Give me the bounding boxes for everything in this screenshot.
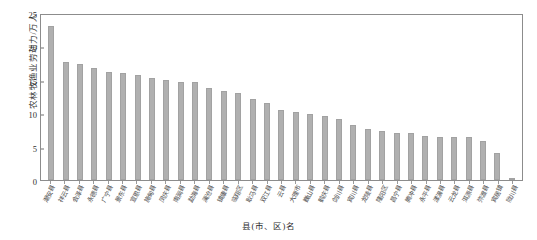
bar-slot: [159, 15, 173, 180]
bar: [437, 137, 443, 180]
x-label-slot: 云龙县: [448, 184, 462, 218]
y-tick-label: 15: [29, 77, 42, 87]
bar-slot: [447, 15, 461, 180]
x-tick-label: 云县: [276, 184, 288, 198]
bar: [192, 82, 198, 180]
bar: [206, 88, 212, 180]
x-label-slot: 潮安县: [43, 184, 57, 218]
bar-slot: [433, 15, 447, 180]
x-label-slot: 宣恩县: [130, 184, 144, 218]
x-tick-label: 临翔区: [230, 184, 245, 203]
x-tick-label: 昌宁县: [388, 184, 403, 203]
x-label-slot: 宾居镇: [491, 184, 505, 218]
x-tick-label: 澜沧县: [201, 184, 216, 203]
x-label-slot: 施甸县: [144, 184, 158, 218]
x-tick-label: 勐海县: [186, 184, 201, 203]
x-tick-label: 宾川县: [345, 184, 360, 203]
bar: [120, 73, 126, 180]
x-label-slot: 云县: [274, 184, 288, 218]
bar-slot: [346, 15, 360, 180]
x-label-slot: 宾川县: [347, 184, 361, 218]
x-label-slot: 洱源县: [462, 184, 476, 218]
bar-slot: [375, 15, 389, 180]
x-tick-label: 隆阳区: [374, 184, 389, 203]
x-tick-label: 弥渡县: [475, 184, 490, 203]
x-tick-label: 凤庆县: [157, 184, 172, 203]
bar-slot: [145, 15, 159, 180]
bar: [350, 125, 356, 180]
bar-slot: [317, 15, 331, 180]
bar-slot: [73, 15, 87, 180]
x-tick-label: 祥云县: [56, 184, 71, 203]
x-tick-label: 龙陵县: [360, 184, 375, 203]
x-tick-label: 云龙县: [446, 184, 461, 203]
bar: [494, 153, 500, 180]
x-tick-label: 陇川县: [504, 184, 519, 203]
x-label-slot: 弥渡县: [477, 184, 491, 218]
bar-slot: [44, 15, 58, 180]
bar: [322, 116, 328, 180]
bar-slot: [202, 15, 216, 180]
x-label-slot: 勐海县: [188, 184, 202, 218]
bar: [365, 129, 371, 180]
x-label-slot: 广宁县: [101, 184, 115, 218]
x-label-slot: 剑川县: [332, 184, 346, 218]
bar: [336, 119, 342, 180]
bar: [77, 64, 83, 180]
bar-slot: [87, 15, 101, 180]
bar-slot: [116, 15, 130, 180]
x-label-slot: 景东县: [115, 184, 129, 218]
bar-slot: [361, 15, 375, 180]
x-label-slot: 镇康县: [216, 184, 230, 218]
x-tick-label: 巍山县: [302, 184, 317, 203]
x-tick-label: 耿马县: [244, 184, 259, 203]
x-axis-title: 县(市、区)名: [0, 219, 537, 231]
x-label-slot: 凤庆县: [159, 184, 173, 218]
plot-area: 0510152025: [40, 14, 523, 181]
bar-slot: [130, 15, 144, 180]
x-tick-label: 洱源县: [461, 184, 476, 203]
x-tick-label: 腾冲县: [403, 184, 418, 203]
bar: [307, 114, 313, 180]
bar: [221, 91, 227, 180]
x-label-slot: 双江县: [260, 184, 274, 218]
x-label-slot: 澜沧县: [202, 184, 216, 218]
bar: [466, 137, 472, 180]
bar-slot: [404, 15, 418, 180]
bar-slot: [289, 15, 303, 180]
x-tick-label: 漾濞县: [432, 184, 447, 203]
x-label-slot: 鹤庆县: [318, 184, 332, 218]
x-label-slot: 巍山县: [303, 184, 317, 218]
x-label-slot: 大理市: [289, 184, 303, 218]
x-label-slot: 陇川县: [506, 184, 520, 218]
x-tick-label: 施甸县: [143, 184, 158, 203]
x-label-slot: 龙陵县: [361, 184, 375, 218]
bar-slot: [260, 15, 274, 180]
x-tick-label: 宾居镇: [490, 184, 505, 203]
bar-slot: [418, 15, 432, 180]
y-tick-label: 25: [29, 10, 42, 20]
bar: [149, 78, 155, 180]
x-tick-label: 广宁县: [99, 184, 114, 203]
bar-slot: [490, 15, 504, 180]
bar: [135, 75, 141, 180]
x-label-slot: 昌宁县: [390, 184, 404, 218]
x-tick-label: 永平县: [417, 184, 432, 203]
bar-slot: [102, 15, 116, 180]
y-tick-label: 20: [29, 43, 42, 53]
bar: [63, 62, 69, 180]
bar-slot: [174, 15, 188, 180]
bar-slot: [303, 15, 317, 180]
cropped-caption-fragment: [0, 0, 537, 7]
x-tick-label: 景东县: [114, 184, 129, 203]
bar-slot: [274, 15, 288, 180]
x-tick-label: 宣恩县: [128, 184, 143, 203]
bar-slot: [476, 15, 490, 180]
bar: [379, 131, 385, 180]
bar: [422, 136, 428, 180]
bar: [250, 99, 256, 180]
bar: [293, 112, 299, 180]
bar-series: [41, 15, 522, 180]
bar: [278, 110, 284, 180]
chart-figure: 农林牧渔业劳动力/万人 0510152025 潮安县祥云县会泽县永德县广宁县景东…: [0, 0, 537, 240]
